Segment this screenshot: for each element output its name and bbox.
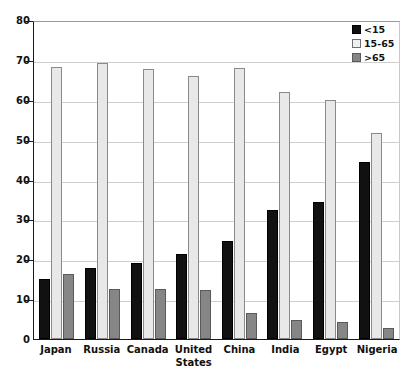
- legend-swatch-icon: [352, 39, 361, 48]
- x-axis-label: India: [262, 344, 308, 357]
- bar: [279, 92, 290, 339]
- legend-swatch-icon: [352, 53, 361, 62]
- y-tick-mark: [25, 61, 33, 62]
- bar: [63, 274, 74, 339]
- bar: [246, 313, 257, 339]
- bar: [359, 162, 370, 339]
- legend-swatch-icon: [352, 25, 361, 34]
- y-tick-mark: [25, 181, 33, 182]
- x-axis-label: China: [217, 344, 263, 357]
- y-tick-mark: [25, 300, 33, 301]
- x-axis-label: United States: [171, 344, 217, 369]
- y-tick-mark: [25, 101, 33, 102]
- x-axis-label: Canada: [125, 344, 171, 357]
- bar: [291, 320, 302, 339]
- x-axis-label: Russia: [79, 344, 125, 357]
- bar-group: [359, 22, 394, 339]
- bar: [131, 263, 142, 339]
- bar: [313, 202, 324, 339]
- bar-group: [267, 22, 302, 339]
- bar: [267, 210, 278, 339]
- bar-chart: 01020304050607080 JapanRussiaCanadaUnite…: [0, 0, 413, 383]
- bar-group: [222, 22, 257, 339]
- legend-label: 15-65: [364, 38, 394, 49]
- legend-item: 15-65: [352, 36, 410, 50]
- bars-layer: [34, 22, 399, 339]
- y-tick-mark: [25, 260, 33, 261]
- chart-legend: <1515-65>65: [352, 22, 410, 64]
- bar: [176, 254, 187, 339]
- bar: [143, 69, 154, 339]
- bar: [325, 100, 336, 339]
- bar: [39, 279, 50, 339]
- bar-group: [39, 22, 74, 339]
- bar-group: [176, 22, 211, 339]
- legend-item: <15: [352, 22, 410, 36]
- bar: [200, 290, 211, 339]
- bar-group: [131, 22, 166, 339]
- legend-label: >65: [364, 52, 385, 63]
- bar: [155, 289, 166, 339]
- bar: [234, 68, 245, 339]
- bar: [383, 328, 394, 339]
- y-tick-mark: [25, 21, 33, 22]
- y-tick-label: 0: [2, 335, 30, 345]
- bar: [371, 133, 382, 339]
- legend-label: <15: [364, 24, 385, 35]
- bar: [337, 322, 348, 339]
- plot-area: [33, 21, 400, 340]
- x-axis-labels: JapanRussiaCanadaUnited StatesChinaIndia…: [33, 344, 400, 382]
- y-tick-mark: [25, 220, 33, 221]
- x-axis-label: Nigeria: [354, 344, 400, 357]
- y-axis: 01020304050607080: [0, 0, 30, 383]
- bar: [85, 268, 96, 339]
- bar: [97, 63, 108, 339]
- bar: [51, 67, 62, 339]
- bar: [188, 76, 199, 339]
- legend-item: >65: [352, 50, 410, 64]
- bar: [109, 289, 120, 339]
- bar-group: [313, 22, 348, 339]
- bar-group: [85, 22, 120, 339]
- x-axis-label: Egypt: [308, 344, 354, 357]
- x-axis-label: Japan: [33, 344, 79, 357]
- y-tick-mark: [25, 141, 33, 142]
- bar: [222, 241, 233, 339]
